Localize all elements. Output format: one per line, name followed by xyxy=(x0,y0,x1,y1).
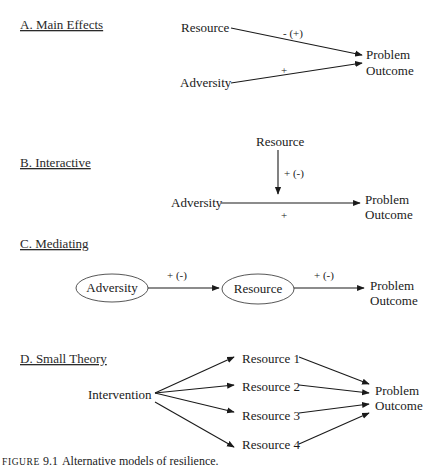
node-c-outcome-line2: Outcome xyxy=(370,293,418,308)
section-c-title: C. Mediating xyxy=(20,236,89,251)
caption-number: 9.1 xyxy=(43,454,58,468)
node-d-intervention: Intervention xyxy=(88,387,152,402)
edge-a-label-adversity: + xyxy=(281,64,287,76)
node-d-resource-4: Resource 4 xyxy=(242,437,301,452)
figure-caption: FIGURE9.1Alternative models of resilienc… xyxy=(2,454,219,468)
edge-d-intervention-r1 xyxy=(155,357,234,393)
node-d-resource-1: Resource 1 xyxy=(242,351,300,366)
node-b-adversity: Adversity xyxy=(171,195,223,210)
section-d-small-theory: D. Small Theory Intervention Resource 1 … xyxy=(20,351,423,452)
section-a-main-effects: A. Main Effects Resource Adversity Probl… xyxy=(20,17,414,90)
node-d-resource-3: Resource 3 xyxy=(242,408,300,423)
node-a-outcome-line1: Problem xyxy=(366,47,410,62)
node-c-resource: Resource xyxy=(234,281,283,296)
node-b-outcome-line2: Outcome xyxy=(365,207,413,222)
node-c-outcome-line1: Problem xyxy=(370,278,414,293)
section-b-title: B. Interactive xyxy=(20,155,91,170)
section-c-mediating: C. Mediating Adversity + (-) Resource + … xyxy=(20,236,418,308)
node-d-outcome-line2: Outcome xyxy=(375,398,423,413)
resilience-models-diagram: A. Main Effects Resource Adversity Probl… xyxy=(0,0,435,470)
edge-d-r4-outcome xyxy=(299,413,369,444)
section-b-interactive: B. Interactive Resource + (-) Adversity … xyxy=(20,134,413,222)
edge-a-label-resource: - (+) xyxy=(283,27,303,40)
node-d-outcome-line1: Problem xyxy=(375,383,419,398)
node-c-adversity: Adversity xyxy=(86,280,138,295)
edge-b-label-adversity: + xyxy=(281,209,287,221)
edge-c-label-1: + (-) xyxy=(167,269,187,282)
section-a-title: A. Main Effects xyxy=(20,17,103,32)
node-d-resource-2: Resource 2 xyxy=(242,379,300,394)
node-a-adversity: Adversity xyxy=(180,75,232,90)
edge-a-adversity-outcome xyxy=(231,63,362,83)
node-a-outcome-line2: Outcome xyxy=(366,63,414,78)
edge-d-intervention-r2 xyxy=(155,385,234,393)
edge-c-label-2: + (-) xyxy=(314,269,334,282)
edge-d-r1-outcome xyxy=(299,357,369,384)
edge-b-label-resource: + (-) xyxy=(284,167,304,180)
caption-prefix: FIGURE xyxy=(2,457,40,467)
edge-d-r3-outcome xyxy=(299,404,369,413)
node-b-outcome-line1: Problem xyxy=(365,192,409,207)
node-b-resource: Resource xyxy=(256,134,305,149)
edge-d-r2-outcome xyxy=(299,385,369,393)
section-d-title: D. Small Theory xyxy=(20,351,107,366)
caption-text: Alternative models of resilience. xyxy=(62,454,219,468)
node-a-resource: Resource xyxy=(181,20,230,35)
